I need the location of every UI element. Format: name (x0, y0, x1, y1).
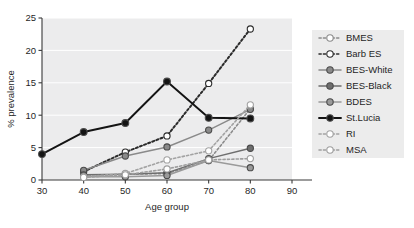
legend-marker (327, 115, 333, 121)
data-point (122, 120, 129, 127)
prevalence-line-chart: 0510152025 30405060708090 Age group % pr… (0, 0, 414, 228)
legend-label: RI (346, 128, 356, 139)
x-tick-label-50: 50 (120, 185, 131, 196)
data-point (164, 157, 170, 163)
x-tick-label-60: 60 (162, 185, 173, 196)
data-point (247, 165, 253, 171)
data-point (164, 133, 170, 139)
legend-label: St.Lucia (346, 112, 381, 123)
data-point (206, 148, 212, 154)
legend-marker (327, 35, 333, 41)
data-point (164, 166, 170, 172)
legend-label: BMES (346, 32, 373, 43)
data-point (247, 26, 253, 32)
plot-area-background (42, 18, 292, 180)
data-point (247, 102, 253, 108)
legend-label: MSA (346, 144, 367, 155)
data-point (247, 156, 253, 162)
legend-label: BES-White (346, 64, 392, 75)
legend-marker (327, 67, 333, 73)
legend-marker (327, 131, 333, 137)
chart-figure: 0510152025 30405060708090 Age group % pr… (0, 0, 414, 228)
y-tick-label-15: 15 (25, 77, 36, 88)
data-point (81, 174, 87, 180)
x-tick-label-30: 30 (37, 185, 48, 196)
y-tick-label-20: 20 (25, 45, 36, 56)
data-point (206, 80, 212, 86)
data-point (39, 151, 46, 158)
legend-marker (327, 83, 333, 89)
y-axis-title: % prevalence (5, 70, 16, 128)
legend-label: BDES (346, 96, 372, 107)
x-tick-label-40: 40 (78, 185, 89, 196)
legend-label: Barb ES (346, 48, 381, 59)
data-point (164, 144, 170, 150)
x-tick-label-70: 70 (203, 185, 214, 196)
data-point (122, 153, 128, 159)
data-point (80, 129, 87, 136)
legend-marker (327, 99, 333, 105)
legend-marker (327, 51, 333, 57)
data-point (205, 114, 212, 121)
y-tick-label-0: 0 (31, 174, 36, 185)
data-point (206, 127, 212, 133)
y-tick-label-25: 25 (25, 12, 36, 23)
y-tick-label-5: 5 (31, 142, 36, 153)
data-point (164, 78, 171, 85)
data-point (122, 172, 128, 178)
x-axis-title: Age group (145, 201, 189, 212)
data-point (164, 172, 170, 178)
x-tick-label-90: 90 (287, 185, 298, 196)
data-point (247, 115, 254, 122)
legend-label: BES-Black (346, 80, 392, 91)
x-tick-label-80: 80 (245, 185, 256, 196)
legend-marker (327, 147, 333, 153)
y-tick-label-10: 10 (25, 110, 36, 121)
data-point (247, 145, 253, 151)
data-point (206, 157, 212, 163)
